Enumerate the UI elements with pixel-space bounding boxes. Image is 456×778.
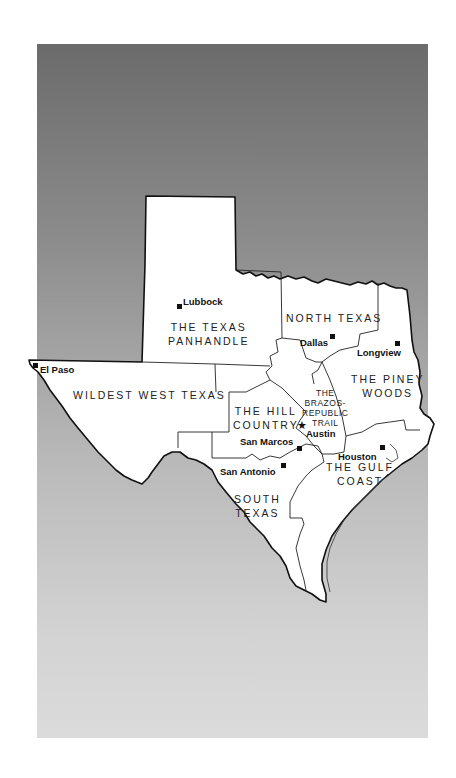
region-label-line: THE TEXAS bbox=[168, 320, 249, 334]
region-label-line: NORTH TEXAS bbox=[286, 311, 382, 325]
region-label-line: PANHANDLE bbox=[168, 334, 249, 348]
region-label-line: COUNTRY bbox=[233, 418, 299, 432]
region-label-south-texas: SOUTH TEXAS bbox=[234, 492, 281, 520]
region-label-line: COAST bbox=[326, 474, 394, 488]
region-label-hill-country: THE HILL COUNTRY bbox=[233, 404, 299, 432]
region-label-line: THE GULF bbox=[326, 460, 394, 474]
city-marker-dallas bbox=[330, 334, 335, 339]
city-label-san-marcos: San Marcos bbox=[240, 436, 293, 447]
city-label-austin: Austin bbox=[306, 428, 336, 439]
region-label-piney-woods: THE PINEY WOODS bbox=[351, 372, 424, 400]
region-label-panhandle: THE TEXAS PANHANDLE bbox=[168, 320, 249, 348]
city-label-san-antonio: San Antonio bbox=[220, 466, 276, 477]
city-marker-san-antonio bbox=[281, 463, 286, 468]
city-marker-san-marcos bbox=[297, 446, 302, 451]
city-label-lubbock: Lubbock bbox=[183, 296, 223, 307]
region-label-line: TEXAS bbox=[234, 506, 281, 520]
region-label-line: THE PINEY bbox=[351, 372, 424, 386]
city-label-dallas: Dallas bbox=[300, 337, 328, 348]
region-label-line: WILDEST WEST TEXAS bbox=[73, 388, 226, 402]
region-label-line: TRAIL bbox=[302, 418, 349, 428]
region-label-line: THE HILL bbox=[233, 404, 299, 418]
region-label-gulf-coast: THE GULF COAST bbox=[326, 460, 394, 488]
city-marker-el-paso bbox=[33, 363, 38, 368]
region-label-north-texas: NORTH TEXAS bbox=[286, 311, 382, 325]
city-marker-houston bbox=[380, 445, 385, 450]
city-label-el-paso: El Paso bbox=[40, 364, 74, 375]
region-label-brazos: THE BRAZOS- REPUBLIC TRAIL bbox=[302, 388, 349, 428]
region-label-line: BRAZOS- bbox=[302, 398, 349, 408]
city-label-longview: Longview bbox=[357, 347, 401, 358]
region-label-line: THE bbox=[302, 388, 349, 398]
region-label-line: WOODS bbox=[351, 386, 424, 400]
region-label-line: SOUTH bbox=[234, 492, 281, 506]
region-label-line: REPUBLIC bbox=[302, 408, 349, 418]
city-marker-lubbock bbox=[177, 304, 182, 309]
city-marker-longview bbox=[395, 341, 400, 346]
city-label-houston: Houston bbox=[338, 451, 377, 462]
region-label-wildest-west: WILDEST WEST TEXAS bbox=[73, 388, 226, 402]
